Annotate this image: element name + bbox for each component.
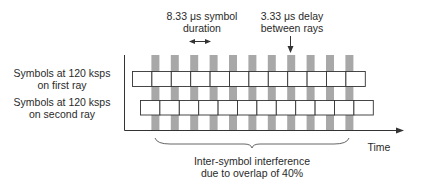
symbol-box: [315, 101, 334, 116]
second-ray-symbols: [141, 101, 374, 116]
symbol-box: [179, 101, 198, 116]
symbol-box: [191, 72, 210, 87]
overlap-bar: [345, 55, 353, 130]
symbol-duration-label: 8.33 μs symbol duration: [160, 10, 244, 34]
symbol-box: [268, 72, 287, 87]
ray-delay-line1: 3.33 μs delay: [252, 10, 332, 22]
symbol-box: [335, 101, 354, 116]
symbol-box: [141, 101, 160, 116]
symbol-box: [152, 72, 171, 87]
isi-label: Inter-symbol interference due to overlap…: [182, 155, 322, 179]
symbol-box: [133, 72, 152, 87]
symbol-box: [160, 101, 179, 116]
second-ray-label: Symbols at 120 ksps on second ray: [6, 96, 118, 120]
symbol-box: [346, 72, 365, 87]
first-ray-symbols: [133, 72, 366, 87]
isi-label-line1: Inter-symbol interference: [182, 155, 322, 167]
symbol-box: [249, 72, 268, 87]
second-ray-label-line2: on second ray: [6, 108, 118, 120]
time-axis-label: Time: [364, 141, 394, 153]
overlap-bar: [248, 55, 256, 130]
symbol-duration-line2: duration: [160, 22, 244, 34]
symbol-box: [354, 101, 373, 116]
symbol-box: [288, 72, 307, 87]
overlap-bar: [229, 55, 237, 130]
overlap-bar: [171, 55, 179, 130]
symbol-box: [296, 101, 315, 116]
time-arrow-icon: [396, 128, 404, 134]
duration-double-arrow-icon: [189, 39, 211, 44]
symbol-box: [210, 72, 229, 87]
ray-delay-line2: between rays: [252, 22, 332, 34]
symbol-box: [276, 101, 295, 116]
overlap-bar: [151, 55, 159, 130]
ray-delay-label: 3.33 μs delay between rays: [252, 10, 332, 34]
symbol-box: [218, 101, 237, 116]
overlap-bar: [326, 55, 334, 130]
isi-label-line2: due to overlap of 40%: [182, 167, 322, 179]
isi-brace: [155, 138, 349, 148]
overlap-bar: [210, 55, 218, 130]
symbol-box: [230, 72, 249, 87]
symbol-box: [307, 72, 326, 87]
symbol-box: [238, 101, 257, 116]
symbol-box: [327, 72, 346, 87]
symbol-box: [257, 101, 276, 116]
symbol-box: [171, 72, 190, 87]
overlap-bar: [268, 55, 276, 130]
first-ray-label-line2: on first ray: [6, 79, 118, 91]
overlap-bar: [190, 55, 198, 130]
isi-overlap-bars: [151, 55, 353, 130]
first-ray-label: Symbols at 120 ksps on first ray: [6, 67, 118, 91]
overlap-bar: [287, 55, 295, 130]
overlap-bar: [307, 55, 315, 130]
delay-down-arrow-icon: [288, 36, 294, 53]
symbol-duration-line1: 8.33 μs symbol: [160, 10, 244, 22]
first-ray-label-line1: Symbols at 120 ksps: [6, 67, 118, 79]
second-ray-label-line1: Symbols at 120 ksps: [6, 96, 118, 108]
symbol-box: [199, 101, 218, 116]
